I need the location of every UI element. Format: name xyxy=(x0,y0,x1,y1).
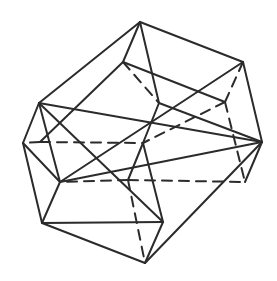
visible-edge xyxy=(42,222,163,223)
hidden-edge xyxy=(40,142,143,143)
hidden-edge xyxy=(23,142,40,143)
visible-edge xyxy=(123,62,225,102)
hidden-edge xyxy=(128,180,245,182)
visible-edge xyxy=(243,62,262,142)
wireframe-polyhedron xyxy=(0,0,277,281)
visible-edge xyxy=(145,142,262,263)
visible-edge xyxy=(143,143,163,222)
visible-edge xyxy=(42,223,145,263)
visible-edge xyxy=(140,22,243,62)
visible-edge xyxy=(23,143,42,223)
visible-edge xyxy=(40,62,123,142)
visible-edge xyxy=(145,222,163,263)
visible-edge xyxy=(159,103,262,142)
rhombic-dodecahedron-diagram xyxy=(0,0,277,281)
visible-edge xyxy=(42,182,60,223)
visible-edge xyxy=(23,103,39,143)
visible-edge xyxy=(245,142,262,182)
visible-edge xyxy=(128,143,143,180)
